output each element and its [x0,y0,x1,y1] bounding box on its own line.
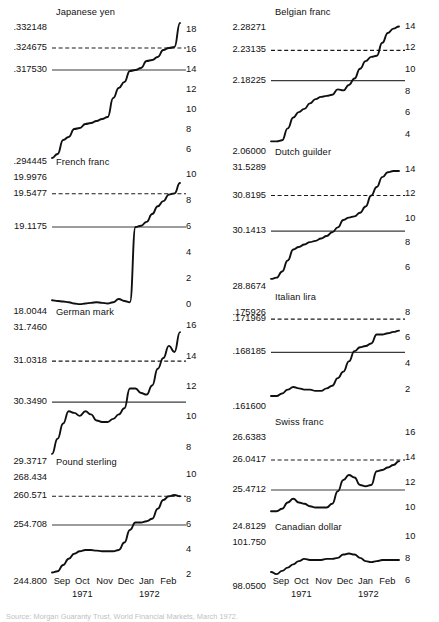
x-year-left-second: 1972 [139,589,160,599]
right-tick-4-8: 8 [405,86,410,96]
left-tick-solid-parity-5: 30.1413 [221,225,266,235]
right-tick-6-8: 8 [405,307,410,317]
right-tick-5-12: 12 [405,188,415,198]
panel-title-2: German mark [56,307,114,317]
panel-title-0: Japanese yen [56,7,115,17]
panel-plot-1 [52,170,180,310]
right-tick-7-14: 14 [405,452,415,462]
right-tick-1-2: 2 [186,273,191,283]
left-tick-dashed-upper-limit-5: 30.8195 [221,190,266,200]
rate-series-line [271,461,399,511]
panel-title-5: Dutch guilder [275,147,331,157]
rate-series-line [271,331,399,396]
series-canvas [271,430,399,525]
left-tick-bottom-4: 2.06000 [221,146,266,156]
right-tick-8-6: 6 [405,575,410,585]
source-note: Source: Morgan Guaranty Trust, World Fin… [6,612,238,621]
right-tick-7-10: 10 [405,502,415,512]
right-tick-4-6: 6 [405,107,410,117]
right-tick-0-6: 6 [186,144,191,154]
right-tick-0-14: 14 [186,64,196,74]
rate-series-line [52,23,180,158]
right-tick-6-2: 2 [405,384,410,394]
left-tick-bottom-2: 29.3717 [2,456,47,466]
left-tick-top-8: 101.750 [221,537,266,547]
right-tick-4-4: 4 [405,129,410,139]
left-tick-top-7: 26.6383 [221,432,266,442]
right-tick-4-12: 12 [405,42,415,52]
right-tick-2-8: 8 [186,442,191,452]
panel-plot-6 [271,305,399,405]
right-tick-7-12: 12 [405,477,415,487]
left-tick-bottom-7: 24.8129 [221,521,266,531]
left-tick-top-2: 31.7460 [2,322,47,332]
left-tick-bottom-6: .161600 [221,401,266,411]
panel-plot-7 [271,430,399,525]
right-tick-3-2: 2 [186,569,191,579]
right-tick-1-4: 4 [186,247,191,257]
series-canvas [52,170,180,310]
right-tick-2-12: 12 [186,381,196,391]
right-tick-1-8: 8 [186,195,191,205]
right-tick-3-4: 4 [186,544,191,554]
left-tick-bottom-3: 244.800 [2,576,47,586]
left-tick-dashed-upper-limit-2: 31.0318 [2,355,47,365]
series-canvas [52,470,180,580]
x-tick-left-Jan: Jan [139,576,154,586]
panel-title-8: Canadian dollar [275,522,342,532]
panel-plot-2 [52,320,180,460]
panel-title-7: Swiss franc [275,417,324,427]
right-tick-6-4: 4 [405,358,410,368]
right-tick-3-8: 8 [186,494,191,504]
left-tick-bottom-0: .294445 [2,156,47,166]
series-canvas [271,305,399,405]
right-tick-2-14: 14 [186,351,196,361]
right-tick-4-14: 14 [405,21,415,31]
left-tick-top-1: 19.9976 [2,172,47,182]
x-tick-right-Nov: Nov [315,576,332,586]
rate-series-line [271,171,399,279]
right-tick-8-10: 10 [405,531,415,541]
panel-title-1: French franc [56,157,109,167]
panel-plot-3 [52,470,180,580]
series-canvas [52,320,180,460]
x-tick-left-Oct: Oct [75,576,89,586]
left-tick-solid-parity-7: 25.4712 [221,484,266,494]
right-tick-8-8: 8 [405,553,410,563]
right-tick-5-6: 6 [405,262,410,272]
left-tick-solid-parity-1: 19.1175 [2,221,47,231]
left-tick-top-4: 2.28271 [221,22,266,32]
right-tick-2-16: 16 [186,320,196,330]
rate-series-line [52,183,180,304]
right-tick-1-0: 0 [186,299,191,309]
panel-plot-5 [271,160,399,285]
left-tick-dashed-upper-limit-7: 26.0417 [221,454,266,464]
panel-plot-0 [52,20,180,160]
left-tick-dashed-upper-limit-6: .171969 [221,313,266,323]
right-tick-0-8: 8 [186,124,191,134]
left-tick-dashed-upper-limit-3: 260.571 [2,490,47,500]
left-tick-top-0: .332148 [2,22,47,32]
right-tick-5-10: 10 [405,213,415,223]
x-tick-right-Feb: Feb [379,576,395,586]
left-tick-top-3: 268.434 [2,472,47,482]
right-tick-0-18: 18 [186,24,196,34]
left-tick-solid-parity-2: 30.3490 [2,396,47,406]
left-tick-dashed-upper-limit-1: 19.5477 [2,188,47,198]
x-tick-left-Dec: Dec [118,576,135,586]
left-tick-solid-parity-6: .168185 [221,346,266,356]
left-tick-solid-parity-0: .317530 [2,64,47,74]
left-tick-bottom-1: 18.0044 [2,306,47,316]
series-canvas [271,160,399,285]
x-tick-left-Nov: Nov [96,576,113,586]
right-tick-1-6: 6 [186,221,191,231]
left-tick-solid-parity-4: 2.18225 [221,75,266,85]
x-year-right-second: 1972 [358,589,379,599]
left-tick-dashed-upper-limit-0: .324675 [2,42,47,52]
x-tick-left-Sep: Sep [54,576,71,586]
panel-title-3: Pound sterling [56,457,117,467]
right-tick-5-8: 8 [405,237,410,247]
left-tick-solid-parity-3: 254.708 [2,519,47,529]
rate-series-line [271,27,399,142]
left-tick-bottom-8: 98.0500 [221,581,266,591]
